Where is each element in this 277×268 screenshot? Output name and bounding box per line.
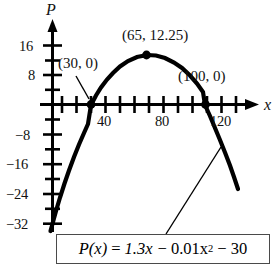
formula-equals: = bbox=[107, 239, 124, 259]
formula-lhs: P(x) bbox=[79, 239, 107, 259]
formula-box: P(x) = 1.3x − 0.01x2 − 30 bbox=[56, 234, 270, 264]
x-axis-label: x bbox=[264, 97, 271, 113]
y-tick-label-minus-24: −24 bbox=[6, 187, 28, 202]
y-tick-label-16: 16 bbox=[19, 39, 33, 54]
x-axis-arrowhead bbox=[245, 99, 259, 110]
point-marker-right-root bbox=[201, 100, 210, 109]
formula-term1: 1.3x bbox=[125, 239, 153, 259]
graph-figure: P x 16 8 −8 −16 −24 −32 40 80 120 (30, 0… bbox=[0, 0, 277, 268]
y-tick-label-minus-16: −16 bbox=[6, 157, 28, 172]
point-marker-vertex bbox=[142, 51, 151, 60]
x-tick-label-120: 120 bbox=[210, 114, 231, 129]
x-tick-label-40: 40 bbox=[97, 114, 111, 129]
point-marker-left-root bbox=[87, 100, 96, 109]
leader-line-formula bbox=[166, 147, 221, 234]
formula-text: P(x) = 1.3x − 0.01x2 − 30 bbox=[57, 235, 269, 263]
y-tick-label-8: 8 bbox=[28, 68, 35, 83]
y-tick-label-minus-8: −8 bbox=[15, 128, 30, 143]
formula-term3: − 30 bbox=[213, 239, 247, 259]
leader-line-left-root bbox=[76, 76, 89, 99]
y-axis-arrowhead bbox=[48, 19, 58, 32]
annotation-left-root: (30, 0) bbox=[58, 56, 98, 71]
annotation-right-root: (100, 0) bbox=[178, 69, 226, 84]
x-tick-label-80: 80 bbox=[155, 114, 169, 129]
y-axis-label: P bbox=[46, 2, 56, 18]
y-tick-label-minus-32: −32 bbox=[6, 217, 28, 232]
formula-term2: − 0.01x bbox=[152, 239, 208, 259]
annotation-vertex: (65, 12.25) bbox=[122, 28, 188, 43]
